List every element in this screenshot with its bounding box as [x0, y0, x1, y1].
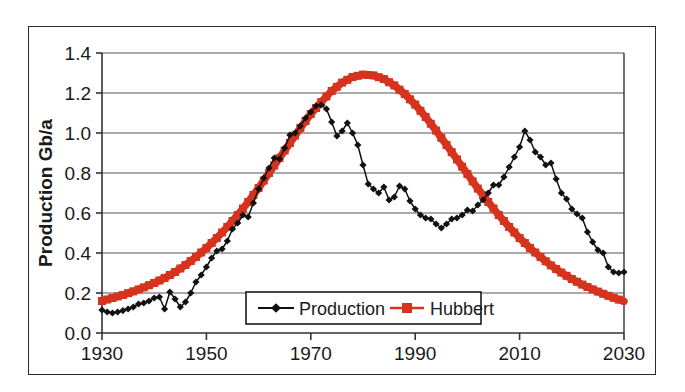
- x-axis-ticks: 193019501970199020102030: [81, 333, 645, 364]
- chart-legend[interactable]: Production Hubbert: [246, 292, 494, 324]
- hubbert-marker: [437, 134, 445, 142]
- hubbert-marker: [615, 296, 623, 304]
- square-icon: [402, 303, 412, 313]
- x-tick-label: 2010: [498, 343, 540, 364]
- y-tick-label: 1.4: [65, 43, 92, 64]
- y-tick-label: 0.8: [65, 163, 91, 184]
- x-tick-label: 2030: [603, 343, 645, 364]
- legend-label-hubbert: Hubbert: [430, 299, 494, 319]
- x-tick-label: 1930: [81, 343, 123, 364]
- hubbert-marker: [469, 177, 477, 185]
- y-tick-label: 0.0: [65, 323, 91, 344]
- y-axis-ticks: 0.00.20.40.60.81.01.21.4: [65, 43, 102, 344]
- legend-label-production: Production: [299, 299, 385, 319]
- hubbert-production-chart: 0.00.20.40.60.81.01.21.4 193019501970199…: [0, 0, 685, 392]
- y-tick-label: 0.6: [65, 203, 91, 224]
- hubbert-marker: [443, 141, 451, 149]
- y-tick-label: 0.4: [65, 243, 92, 264]
- figure-container: 0.00.20.40.60.81.01.21.4 193019501970199…: [0, 0, 685, 392]
- hubbert-marker: [448, 148, 456, 156]
- hubbert-marker: [463, 170, 471, 178]
- y-tick-label: 0.2: [65, 283, 91, 304]
- hubbert-marker: [432, 127, 440, 135]
- y-tick-label: 1.0: [65, 123, 91, 144]
- hubbert-marker: [458, 163, 466, 171]
- hubbert-marker: [453, 155, 461, 163]
- x-tick-label: 1990: [394, 343, 436, 364]
- x-tick-label: 1950: [185, 343, 227, 364]
- plot-area-background: [102, 53, 624, 333]
- x-tick-label: 1970: [290, 343, 332, 364]
- y-tick-label: 1.2: [65, 83, 91, 104]
- y-axis-title: Production Gb/a: [35, 119, 56, 267]
